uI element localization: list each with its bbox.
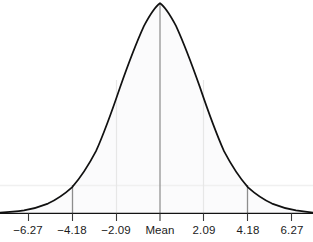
- normal-distribution-chart: −6.27 −4.18 −2.09 Mean 2.09 4.18 6.27: [0, 0, 313, 242]
- x-tick-label-neg-418: −4.18: [57, 224, 87, 236]
- x-tick-label-209: 2.09: [193, 224, 216, 236]
- x-axis-ticks: [29, 213, 292, 221]
- chart-canvas: −6.27 −4.18 −2.09 Mean 2.09 4.18 6.27: [0, 0, 313, 242]
- x-tick-label-418: 4.18: [237, 224, 260, 236]
- x-axis-tick-labels: −6.27 −4.18 −2.09 Mean 2.09 4.18 6.27: [13, 224, 303, 236]
- x-tick-label-neg-209: −2.09: [101, 224, 131, 236]
- x-tick-label-neg-627: −6.27: [13, 224, 43, 236]
- curve-fill-area: [0, 3, 313, 213]
- x-tick-label-627: 6.27: [281, 224, 304, 236]
- x-tick-label-mean: Mean: [145, 224, 174, 236]
